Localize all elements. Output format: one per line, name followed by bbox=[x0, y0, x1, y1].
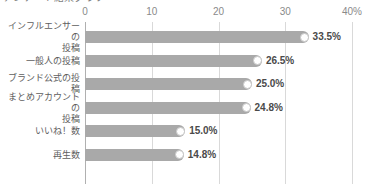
x-tick-label: 30 bbox=[280, 6, 291, 18]
category-label: まとめアカウントの 投稿 bbox=[2, 91, 80, 124]
bar-end-marker bbox=[300, 33, 309, 42]
x-tick-label: 40% bbox=[342, 6, 362, 18]
bar-end-marker bbox=[243, 80, 252, 89]
bar-row[interactable]: ブランド公式の投稿25.0% bbox=[85, 78, 352, 90]
gridline-40 bbox=[352, 22, 353, 184]
bar-end-marker bbox=[176, 127, 185, 136]
bar-value-label: 24.8% bbox=[255, 102, 283, 114]
bar[interactable] bbox=[85, 125, 185, 137]
category-label: 再生数 bbox=[2, 149, 80, 160]
bar-row[interactable]: インフルエンサーの 投稿33.5% bbox=[85, 31, 352, 43]
bar-value-label: 33.5% bbox=[313, 31, 341, 43]
bar-end-marker bbox=[253, 56, 262, 65]
bar-row[interactable]: 再生数14.8% bbox=[85, 149, 352, 161]
bar-end-marker bbox=[242, 103, 251, 112]
bar[interactable] bbox=[85, 78, 252, 90]
bar-row[interactable]: まとめアカウントの 投稿24.8% bbox=[85, 102, 352, 114]
category-label: インフルエンサーの 投稿 bbox=[2, 21, 80, 54]
bar[interactable] bbox=[85, 31, 309, 43]
bar-row[interactable]: いいね！数15.0% bbox=[85, 125, 352, 137]
bar-value-label: 25.0% bbox=[256, 78, 284, 90]
x-tick-label: 20 bbox=[213, 6, 224, 18]
bar[interactable] bbox=[85, 102, 251, 114]
bar[interactable] bbox=[85, 149, 184, 161]
category-label: いいね！数 bbox=[2, 126, 80, 137]
horizontal-bar-chart: 010203040% インフルエンサーの 投稿33.5%一般人の投稿26.5%ブ… bbox=[0, 0, 369, 184]
category-label: 一般人の投稿 bbox=[2, 55, 80, 66]
x-tick-label: 0 bbox=[82, 6, 88, 18]
bar-end-marker bbox=[175, 150, 184, 159]
x-tick-label: 10 bbox=[146, 6, 157, 18]
bar-row[interactable]: 一般人の投稿26.5% bbox=[85, 55, 352, 67]
bar[interactable] bbox=[85, 55, 262, 67]
bar-value-label: 15.0% bbox=[189, 125, 217, 137]
bar-value-label: 26.5% bbox=[266, 55, 294, 67]
bar-value-label: 14.8% bbox=[188, 149, 216, 161]
